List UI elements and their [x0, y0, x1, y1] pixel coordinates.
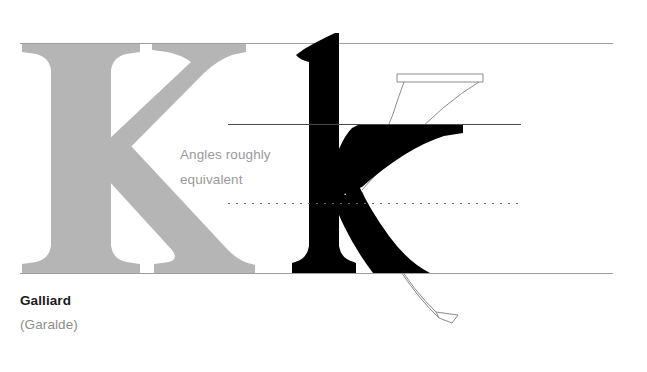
overlay-capital-k-outline-glyph	[362, 74, 483, 323]
typeface-classification-label: (Garalde)	[20, 316, 320, 334]
specimen-caption-block: Galliard (Garalde)	[20, 292, 320, 334]
typography-specimen-page: Angles roughly equivalent Galliard (Gara…	[0, 0, 647, 372]
typeface-name-label: Galliard	[20, 292, 320, 310]
angles-annotation-label: Angles roughly equivalent	[180, 142, 340, 192]
